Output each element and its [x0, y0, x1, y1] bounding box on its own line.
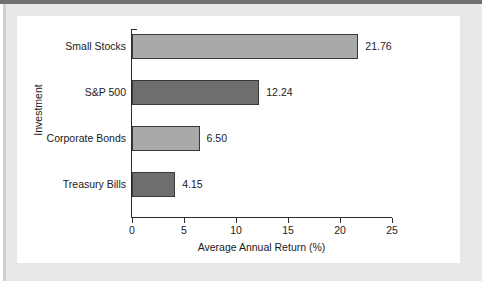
- figure-frame-left-shadow: [3, 4, 6, 281]
- category-label-corporate-bonds: Corporate Bonds: [47, 126, 126, 151]
- x-tick-0: [132, 218, 133, 223]
- figure-card: Small Stocks 21.76 S&P 500 12.24 Corpora…: [17, 16, 460, 263]
- category-label-treasury-bills: Treasury Bills: [63, 172, 126, 197]
- x-tick-label-0: 0: [129, 224, 135, 236]
- category-label-small-stocks: Small Stocks: [65, 34, 126, 59]
- value-label-corporate-bonds: 6.50: [207, 126, 227, 151]
- x-tick-15: [288, 218, 289, 223]
- value-label-treasury-bills: 4.15: [182, 172, 202, 197]
- x-tick-label-5: 5: [181, 224, 187, 236]
- x-axis-title: Average Annual Return (%): [131, 241, 392, 253]
- y-axis-top-cap: [131, 29, 137, 30]
- bar-treasury-bills: [132, 172, 175, 197]
- bar-corporate-bonds: [132, 126, 200, 151]
- x-tick-10: [236, 218, 237, 223]
- x-tick-label-25: 25: [386, 224, 398, 236]
- x-tick-5: [184, 218, 185, 223]
- x-tick-label-10: 10: [230, 224, 242, 236]
- chart-screenshot: Small Stocks 21.76 S&P 500 12.24 Corpora…: [0, 0, 482, 281]
- x-axis-line: [131, 217, 392, 218]
- x-tick-20: [340, 218, 341, 223]
- category-label-sp-500: S&P 500: [85, 80, 126, 105]
- bar-sp-500: [132, 80, 259, 105]
- value-label-sp-500: 12.24: [266, 80, 292, 105]
- x-tick-label-20: 20: [334, 224, 346, 236]
- value-label-small-stocks: 21.76: [365, 34, 391, 59]
- x-tick-25: [392, 218, 393, 223]
- x-tick-label-15: 15: [282, 224, 294, 236]
- bar-chart-plot-area: Small Stocks 21.76 S&P 500 12.24 Corpora…: [17, 16, 460, 263]
- y-axis-title: Investment: [32, 60, 44, 160]
- bar-small-stocks: [132, 34, 358, 59]
